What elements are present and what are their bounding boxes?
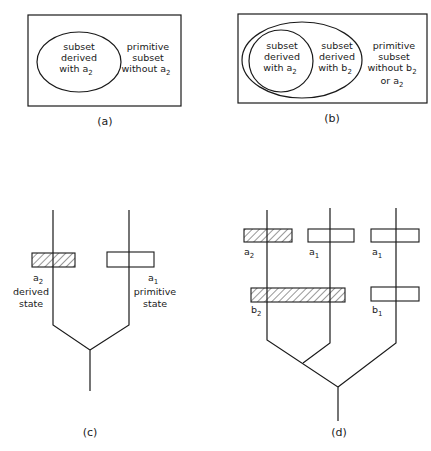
label-b1: b1 [372,304,383,318]
panel-b: subset derived with a2 subset derived wi… [238,14,427,125]
inner-text-2: derived [61,52,97,63]
label-a2: a2 [33,272,43,286]
inner-text-2: derived [264,51,300,62]
inner-text-3: with a2 [59,63,92,77]
outer-text-2: subset [132,52,164,63]
caption-d: (d) [331,426,347,439]
b2-bar [251,288,345,302]
b1-bar [371,287,419,301]
derived-text-2: state [19,298,43,309]
middle-text-2: derived [319,51,355,62]
a2-bar [244,229,292,242]
label-a2: a2 [244,246,254,260]
outer-text-2: subset [378,51,410,62]
left-branch [53,210,90,391]
panel-a: subset derived with a2 primitive subset … [28,15,181,128]
outer-text-3: without a2 [121,63,170,77]
caption-a: (a) [97,115,112,128]
primitive-state-bar [107,252,154,267]
inner-text-1: subset [266,40,298,51]
label-b2: b2 [251,304,262,318]
panel-d: a2 a1 a1 b2 b1 (d) [244,208,419,439]
outer-text-3: without b2 [367,62,416,76]
inner-text-1: subset [63,41,95,52]
a1-bar [308,229,354,242]
outer-text-1: primitive [373,40,415,51]
label-a1: a1 [309,246,319,260]
label-a1: a1 [372,246,382,260]
caption-b: (b) [324,112,340,125]
inner-text-3: with a2 [263,62,296,76]
cladogram-figure: subset derived with a2 primitive subset … [0,0,431,451]
right-branch [90,210,129,350]
primitive-text-2: state [143,298,167,309]
label-a1: a1 [148,272,158,286]
branch-2 [303,208,330,363]
branch-3 [338,208,396,387]
derived-text-1: derived [13,286,49,297]
outer-text-1: primitive [127,41,169,52]
outer-text-4: or a2 [380,75,403,89]
middle-text-3: with b2 [318,62,352,76]
primitive-text-1: primitive [134,286,176,297]
derived-state-bar [32,253,75,267]
caption-c: (c) [83,426,98,439]
a1-bar [371,229,419,242]
panel-c: a2 derived state a1 primitive state (c) [13,210,176,439]
middle-text-1: subset [321,40,353,51]
